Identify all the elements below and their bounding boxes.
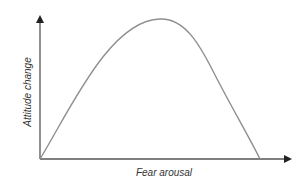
- x-axis-label: Fear arousal: [136, 167, 192, 178]
- y-axis-label: Attitude change: [22, 57, 33, 127]
- inverted-u-curve: [40, 19, 260, 159]
- inverted-u-diagram: [0, 0, 304, 184]
